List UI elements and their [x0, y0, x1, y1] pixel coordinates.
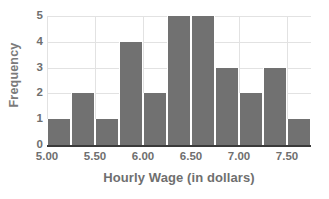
histogram-bar	[47, 119, 71, 145]
x-tick-label: 6.50	[180, 150, 202, 164]
histogram-bar	[263, 68, 287, 145]
histogram-bar	[95, 119, 119, 145]
plot-area	[47, 16, 311, 145]
histogram-bar	[215, 68, 239, 145]
x-axis-tick-labels: 5.005.506.006.507.007.50	[0, 150, 329, 166]
y-axis-tick-labels: 012345	[24, 0, 43, 199]
histogram-bar	[239, 93, 263, 145]
histogram-bar	[191, 16, 215, 145]
histogram-bar	[287, 119, 311, 145]
y-axis-title-text: Frequency	[6, 42, 20, 107]
y-tick-label: 2	[27, 88, 43, 100]
x-axis-line	[47, 145, 311, 147]
y-tick-label: 3	[27, 62, 43, 74]
y-axis-title: Frequency	[0, 0, 26, 150]
histogram-bar	[167, 16, 191, 145]
histogram-bar	[143, 93, 167, 145]
x-tick-label: 5.50	[84, 150, 106, 164]
histogram-bar	[71, 93, 95, 145]
x-axis-title: Hourly Wage (in dollars)	[47, 170, 311, 185]
y-tick-label: 4	[27, 36, 43, 48]
x-tick-label: 5.00	[36, 150, 58, 164]
x-tick-label: 6.00	[132, 150, 154, 164]
y-tick-label: 5	[27, 10, 43, 22]
x-tick-label: 7.50	[276, 150, 298, 164]
y-tick-label: 1	[27, 113, 43, 125]
histogram-figure: Frequency 012345 5.005.506.006.507.007.5…	[0, 0, 329, 199]
x-tick-label: 7.00	[228, 150, 250, 164]
histogram-bar	[119, 42, 143, 145]
